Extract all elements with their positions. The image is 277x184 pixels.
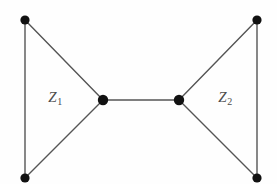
graph-canvas [0,0,277,184]
graph-vertex-top-left [20,15,29,24]
region-label-z2-base: Z [218,89,227,105]
graph-vertex-top-right [252,15,261,24]
figure-container: Z1 Z2 [0,0,277,184]
graph-edge-right-lower-diagonal [179,100,257,178]
region-label-z1-subscript: 1 [57,96,62,107]
region-label-z2-subscript: 2 [227,96,232,107]
graph-edge-left-upper-diagonal [25,20,103,100]
region-label-z1: Z1 [48,89,62,106]
graph-edge-left-lower-diagonal [25,100,103,178]
graph-vertex-right-center [174,95,184,105]
region-label-z1-base: Z [48,89,57,105]
graph-vertex-left-center [98,95,108,105]
region-label-z2: Z2 [218,89,232,106]
graph-vertex-bottom-left [20,173,29,182]
graph-vertex-bottom-right [252,173,261,182]
